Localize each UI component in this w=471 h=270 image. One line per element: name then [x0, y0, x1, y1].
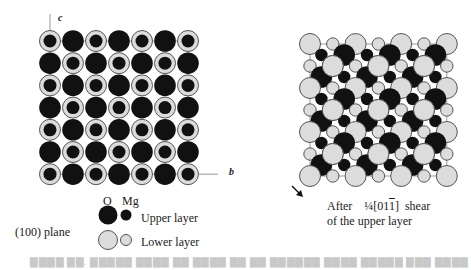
upper-mg-atom — [182, 35, 195, 48]
caption-shear: shear — [405, 199, 430, 213]
upper-o-atom — [62, 119, 84, 141]
upper-o-atom — [131, 141, 153, 163]
upper-mg-atom — [136, 168, 149, 181]
lower-mg-atom — [418, 170, 430, 182]
plane-label: (100) plane — [15, 225, 70, 240]
upper-mg-atom — [44, 168, 57, 181]
upper-o-atom — [177, 141, 199, 163]
upper-o-atom — [85, 97, 107, 119]
upper-mg-atom — [159, 146, 172, 159]
upper-o-atom — [108, 119, 130, 141]
lower-o-atom — [322, 100, 343, 121]
lower-o-atom — [391, 166, 412, 187]
upper-mg-atom — [136, 79, 149, 92]
legend-lower-o-icon — [99, 231, 118, 250]
upper-o-atom — [154, 30, 176, 52]
lower-o-atom — [368, 56, 389, 77]
upper-mg-atom — [44, 79, 57, 92]
legend-label-lower: Lower layer — [141, 235, 199, 250]
legend-header-mg: Mg — [122, 194, 139, 209]
upper-o-atom — [62, 163, 84, 185]
upper-mg-atom — [113, 146, 126, 159]
upper-mg-atom — [113, 57, 126, 70]
upper-o-atom — [108, 75, 130, 97]
upper-o-atom — [85, 52, 107, 74]
upper-mg-atom — [90, 168, 103, 181]
axis-label-c: c — [58, 12, 62, 23]
legend-upper-mg-icon — [121, 210, 132, 221]
lower-o-atom — [414, 56, 435, 77]
lower-mg-atom — [327, 170, 339, 182]
caption-after: After — [327, 199, 352, 213]
upper-mg-atom — [182, 79, 195, 92]
upper-mg-atom — [136, 35, 149, 48]
upper-mg-atom — [136, 123, 149, 136]
upper-o-atom — [131, 97, 153, 119]
lower-mg-atom — [441, 104, 453, 116]
upper-o-atom — [131, 52, 153, 74]
upper-o-atom — [154, 119, 176, 141]
upper-mg-atom — [67, 146, 80, 159]
lower-o-atom — [414, 144, 435, 165]
lower-o-atom — [436, 166, 457, 187]
upper-o-atom — [177, 97, 199, 119]
upper-o-atom — [62, 30, 84, 52]
upper-mg-atom — [113, 101, 126, 114]
upper-o-atom — [39, 97, 61, 119]
upper-mg-atom — [44, 35, 57, 48]
caption-vector-close: ] — [395, 199, 399, 213]
upper-o-atom — [177, 52, 199, 74]
lower-mg-atom — [441, 60, 453, 72]
upper-mg-atom — [67, 57, 80, 70]
upper-mg-atom — [182, 168, 195, 181]
lower-o-atom — [322, 56, 343, 77]
upper-o-atom — [62, 75, 84, 97]
mgo-shear-diagram — [0, 0, 471, 270]
axis-label-b: b — [229, 166, 234, 177]
upper-mg-atom — [90, 35, 103, 48]
shear-caption-line1: After ¼[011] shear — [327, 199, 430, 214]
lower-mg-atom — [372, 170, 384, 182]
lower-o-atom — [368, 144, 389, 165]
upper-mg-atom — [67, 101, 80, 114]
upper-o-atom — [154, 163, 176, 185]
upper-o-atom — [108, 30, 130, 52]
lower-mg-atom — [441, 148, 453, 160]
upper-mg-atom — [159, 57, 172, 70]
upper-o-atom — [39, 141, 61, 163]
lower-o-atom — [300, 166, 321, 187]
upper-mg-atom — [44, 123, 57, 136]
legend-header-o: O — [103, 194, 112, 209]
upper-o-atom — [108, 163, 130, 185]
lower-o-atom — [368, 100, 389, 121]
caption-vector: [01 — [373, 199, 389, 213]
upper-o-atom — [85, 141, 107, 163]
caption-fraction: ¼ — [364, 199, 373, 213]
lower-o-atom — [322, 144, 343, 165]
upper-mg-atom — [159, 101, 172, 114]
upper-o-atom — [39, 52, 61, 74]
upper-mg-atom — [182, 123, 195, 136]
shear-caption-line2: of the upper layer — [327, 214, 412, 229]
legend-label-upper: Upper layer — [141, 211, 198, 226]
figure-caption: ▇▇▇▇ ▇▇. ▇▇▇▇▇ ▇▇▇▇ ▇▇ ▇▇▇▇ ▇▇ ▇▇ ▇▇▇▇▇▇… — [30, 256, 471, 267]
lower-o-atom — [414, 100, 435, 121]
legend-lower-mg-icon — [121, 235, 132, 246]
upper-o-atom — [154, 75, 176, 97]
lower-o-atom — [345, 166, 366, 187]
upper-mg-atom — [90, 79, 103, 92]
upper-mg-atom — [90, 123, 103, 136]
